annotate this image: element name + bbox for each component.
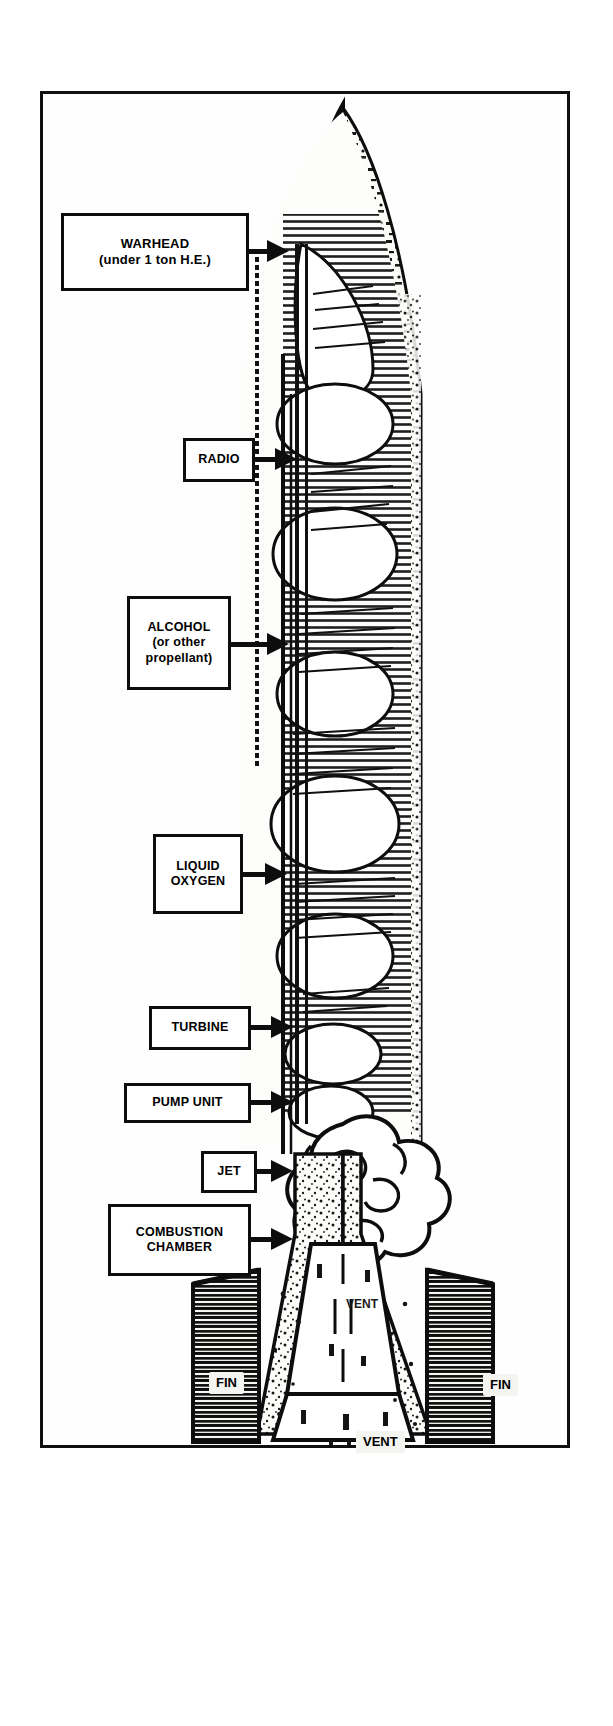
callout-alcohol-line1: ALCOHOL <box>147 620 210 634</box>
figure-frame: WARHEAD (under 1 ton H.E.) RADIO ALCOHOL… <box>40 91 570 1448</box>
label-vent-upper: VENT <box>346 1297 378 1311</box>
callout-liquid-oxygen-line2: OXYGEN <box>171 874 226 888</box>
arrowhead-warhead <box>267 240 289 262</box>
page-canvas: WARHEAD (under 1 ton H.E.) RADIO ALCOHOL… <box>0 0 613 1726</box>
callout-combustion-chamber[interactable]: COMBUSTION CHAMBER <box>108 1204 251 1276</box>
label-vent-lower: VENT <box>356 1431 405 1453</box>
feed-line-a <box>295 244 299 1124</box>
turbine-housing <box>285 1024 381 1084</box>
callout-turbine-line1: TURBINE <box>168 1020 233 1035</box>
leader-alcohol <box>229 642 271 647</box>
callout-combustion-chamber-line2: CHAMBER <box>147 1240 212 1254</box>
lox-tank-dome <box>277 914 393 998</box>
fin-right <box>427 1270 493 1442</box>
callout-jet[interactable]: JET <box>201 1151 257 1193</box>
callout-radio-line1: RADIO <box>194 452 243 467</box>
feed-line-b <box>305 244 308 1124</box>
arrowhead-combustion-chamber <box>271 1228 293 1250</box>
leader-spine-upper <box>255 249 259 769</box>
arrowhead-pump-unit <box>271 1091 293 1113</box>
bulkhead-3 <box>277 652 393 736</box>
fin-left <box>193 1270 259 1442</box>
callout-liquid-oxygen-text: LIQUID OXYGEN <box>167 859 230 890</box>
callout-combustion-chamber-line1: COMBUSTION <box>136 1225 223 1239</box>
callout-pump-unit[interactable]: PUMP UNIT <box>124 1083 251 1123</box>
callout-warhead-line2: (under 1 ton H.E.) <box>99 252 211 267</box>
callout-warhead-line1: WARHEAD <box>121 236 190 251</box>
arrowhead-radio <box>275 448 297 470</box>
callout-liquid-oxygen[interactable]: LIQUID OXYGEN <box>153 834 243 914</box>
arrowhead-alcohol <box>267 633 289 655</box>
callout-radio[interactable]: RADIO <box>183 438 255 482</box>
callout-pump-unit-line1: PUMP UNIT <box>148 1095 226 1110</box>
arrowhead-liquid-oxygen <box>265 863 287 885</box>
callout-turbine[interactable]: TURBINE <box>149 1006 251 1050</box>
callout-warhead-text: WARHEAD (under 1 ton H.E.) <box>95 236 215 268</box>
callout-jet-line1: JET <box>213 1164 245 1179</box>
callout-warhead[interactable]: WARHEAD (under 1 ton H.E.) <box>61 213 249 291</box>
callout-alcohol[interactable]: ALCOHOL (or other propellant) <box>127 596 231 690</box>
arrowhead-turbine <box>271 1016 293 1038</box>
callout-combustion-chamber-text: COMBUSTION CHAMBER <box>132 1225 227 1256</box>
callout-alcohol-line2: (or other <box>152 635 205 649</box>
callout-alcohol-text: ALCOHOL (or other propellant) <box>142 620 217 666</box>
arrowhead-jet <box>271 1160 293 1182</box>
callout-liquid-oxygen-line1: LIQUID <box>176 859 220 873</box>
label-fin-left: FIN <box>209 1372 244 1394</box>
label-fin-right: FIN <box>483 1374 518 1396</box>
callout-alcohol-line3: propellant) <box>146 651 213 665</box>
